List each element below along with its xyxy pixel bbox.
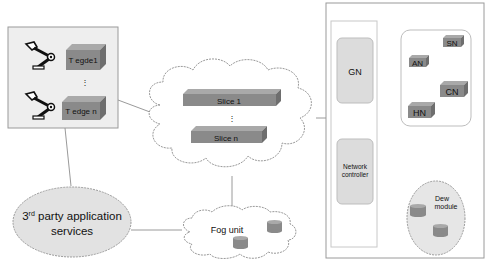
sn-node: SN [443,35,464,48]
edge-device-panel: T egde1 ⋮ T edge n [8,27,118,128]
gn-node: GN [337,38,373,103]
core-network-panel: GN Network controller SN AN [326,3,484,258]
sn-label: SN [446,39,457,48]
edge-ellipsis: ⋮ [81,78,89,87]
fog-unit-label: Fog unit [211,225,244,235]
third-party-label-line2: services [51,225,93,237]
tedge-n-box: T edge n [62,96,106,120]
tedge-1-label: T egde1 [68,56,98,65]
network-architecture-diagram: T egde1 ⋮ T edge n Slice 1 [0,0,491,268]
dew-label-line2: module [435,203,458,210]
dew-module-circle [407,181,465,255]
slice-n-label: Slice n [214,134,238,143]
dew-module: Dew module [407,181,465,255]
slice-1-label: Slice 1 [217,97,242,106]
an-label: AN [412,59,423,68]
third-party-ellipse [13,187,131,257]
hn-node: HN [408,102,435,118]
tedge-n-label: T edge n [65,107,96,116]
fog-unit: Fog unit [183,206,296,259]
storage-cylinder-icon [433,224,448,237]
third-party-label-line1: 3rd party application [22,210,122,222]
slice-1-bar: Slice 1 [183,89,281,106]
gn-label: GN [348,67,362,77]
cloud-shape [149,59,311,167]
network-controller-label-line1: Network [343,163,368,170]
cn-node: CN [440,81,468,97]
storage-cylinder-icon [410,204,426,217]
network-controller-label-line2: controller [342,171,370,178]
slice-cloud: Slice 1 ⋮ Slice n [149,59,311,167]
storage-cylinder-icon [267,220,282,233]
tedge-1-box: T egde1 [66,44,106,70]
hn-label: HN [413,108,426,118]
slice-n-bar: Slice n [191,126,267,143]
edge-to-cloud-line [118,100,150,112]
an-node: AN [409,55,429,68]
slice-ellipsis: ⋮ [228,114,236,123]
node-group: SN AN CN HN [401,30,471,126]
storage-cylinder-icon [233,236,248,249]
dew-label-line1: Dew [435,195,450,202]
third-party-services: 3rd party application services [13,187,131,257]
network-controller-node: Network controller [337,139,373,204]
cn-label: CN [446,87,459,97]
edge-to-thirdparty-line [65,128,71,186]
